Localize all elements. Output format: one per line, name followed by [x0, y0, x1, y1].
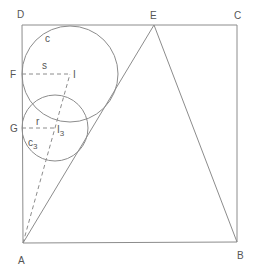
segment-eb	[154, 25, 237, 242]
label-i3: I3	[57, 124, 65, 138]
label-s: s	[42, 60, 47, 71]
label-e: E	[150, 10, 157, 21]
segment-ai	[23, 74, 70, 243]
label-c: C	[234, 10, 241, 21]
label-i: I	[73, 69, 76, 80]
label-a: A	[18, 255, 25, 266]
side-ab	[23, 242, 237, 243]
label-f: F	[10, 69, 16, 80]
label-g: G	[10, 123, 18, 134]
geometry-diagram: D E C A B F G I I3 c c3 s r	[0, 0, 257, 277]
label-r: r	[36, 116, 40, 127]
label-d: D	[17, 9, 24, 20]
label-b: B	[237, 250, 244, 261]
label-circle-c: c	[45, 33, 50, 44]
segment-ae	[23, 25, 154, 243]
